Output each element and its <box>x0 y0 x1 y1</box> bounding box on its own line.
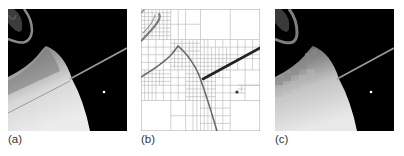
panel-b-label: (b) <box>141 133 155 145</box>
panel-c-reconstructed-image <box>275 9 394 131</box>
panel-c-label: (c) <box>275 133 288 145</box>
saturn-image-reconstructed <box>275 9 394 131</box>
quadtree-grid-diagram <box>141 9 260 131</box>
panel-a-label: (a) <box>8 133 22 145</box>
panel-b-quadtree <box>141 9 260 131</box>
panel-a-original-image <box>8 9 127 131</box>
saturn-image-original <box>8 9 127 131</box>
